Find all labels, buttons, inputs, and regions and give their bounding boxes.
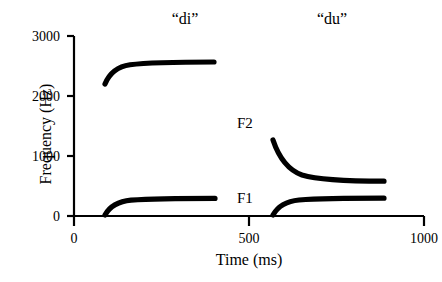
annotation-formant-f2: F2 [237, 116, 253, 131]
annotation-token-du: “du” [297, 11, 367, 27]
formant-track-du-f1 [273, 198, 384, 215]
annotation-formant-f1: F1 [237, 191, 253, 206]
x-tick-label-500: 500 [219, 232, 279, 246]
formant-track-di-f2 [105, 62, 214, 84]
y-tick-label-1000: 1000 [16, 150, 60, 164]
y-axis-label: Frequency (Hz) [38, 44, 54, 224]
y-tick-label-3000: 3000 [16, 30, 60, 44]
formant-track-di-f1 [105, 198, 215, 215]
y-tick-label-2000: 2000 [16, 90, 60, 104]
x-tick-label-1000: 1000 [394, 232, 442, 246]
y-tick-label-0: 0 [16, 210, 60, 224]
annotation-token-di: “di” [150, 11, 220, 27]
x-tick-label-0: 0 [44, 232, 104, 246]
x-axis-label: Time (ms) [159, 252, 339, 268]
formant-track-du-f2 [273, 140, 384, 181]
formant-frequency-chart: Frequency (Hz) Time (ms) 0 1000 2000 300… [0, 0, 442, 282]
